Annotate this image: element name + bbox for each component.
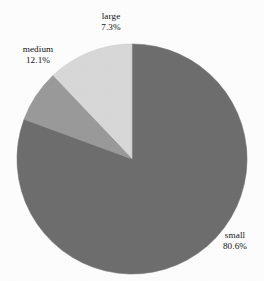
pie-label-small-percent: 80.6% bbox=[208, 241, 262, 252]
pie-chart-figure: large 7.3% medium 12.1% small 80.6% bbox=[0, 0, 264, 281]
pie-label-large: large 7.3% bbox=[80, 11, 142, 34]
pie-label-medium: medium 12.1% bbox=[4, 44, 72, 67]
pie-label-large-name: large bbox=[80, 11, 142, 22]
pie-label-small-name: small bbox=[208, 230, 262, 241]
pie-label-small: small 80.6% bbox=[208, 230, 262, 253]
pie-label-large-percent: 7.3% bbox=[80, 22, 142, 33]
pie-label-medium-percent: 12.1% bbox=[4, 55, 72, 66]
pie-label-medium-name: medium bbox=[4, 44, 72, 55]
